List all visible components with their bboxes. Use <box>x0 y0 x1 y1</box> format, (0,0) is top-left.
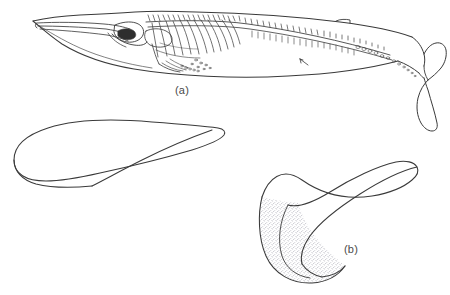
panel-b-label: (b) <box>344 243 358 255</box>
whale-skull <box>35 22 147 47</box>
caudal-flukes <box>417 43 446 131</box>
panel-a-label: (a) <box>175 84 189 96</box>
panel-a-whale <box>33 11 446 131</box>
pectoral-flipper-outline <box>14 120 225 187</box>
pelvic-bones <box>191 59 211 70</box>
figure-plate: (a) (b) <box>0 0 450 295</box>
flipper-bones <box>145 29 200 72</box>
illustration-canvas <box>0 0 450 295</box>
vertebral-column <box>146 15 416 77</box>
dorsal-fin-outline <box>250 161 418 290</box>
flank-arrow-marker <box>300 59 308 65</box>
